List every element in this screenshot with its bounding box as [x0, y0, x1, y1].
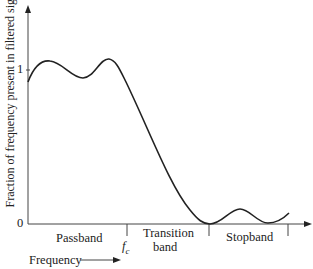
y-tick-label-1: 1 [17, 63, 23, 76]
transition-band-label-line2: band [153, 241, 177, 254]
stopband-label: Stopband [226, 231, 273, 244]
y-axis-label: Fraction of frequency present in filtere… [3, 38, 18, 208]
x-axis-label: Frequency [29, 254, 82, 267]
fc-label-sub: c [125, 246, 129, 256]
fc-label: fc [122, 240, 129, 256]
passband-label: Passband [56, 232, 103, 245]
response-curve [28, 59, 289, 224]
transition-band-label-line1: Transition [143, 227, 194, 240]
y-tick-label-0: 0 [17, 217, 23, 230]
